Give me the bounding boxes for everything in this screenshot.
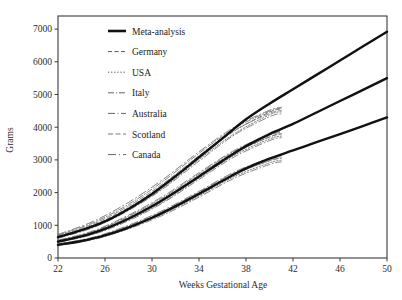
y-tick-label: 6000 [33, 57, 52, 67]
x-tick-label: 30 [147, 264, 157, 274]
x-tick-label: 34 [194, 264, 204, 274]
x-tick-label: 22 [53, 264, 63, 274]
legend-label: USA [132, 68, 151, 78]
y-tick-label: 2000 [33, 188, 52, 198]
chart-root: 01000200030004000500060007000 2226303438… [0, 0, 402, 300]
legend-label: Meta-analysis [132, 27, 186, 37]
x-tick-label: 38 [241, 264, 251, 274]
y-axis-label: Grams [5, 127, 15, 153]
y-tick-label: 1000 [33, 221, 52, 231]
y-tick-label: 5000 [33, 90, 52, 100]
legend-label: Australia [132, 109, 168, 119]
y-tick-label: 0 [47, 253, 52, 263]
x-tick-label: 42 [288, 264, 298, 274]
x-tick-label: 46 [335, 264, 345, 274]
legend-label: Germany [132, 47, 168, 57]
legend-label: Canada [132, 150, 161, 160]
growth-chart: 01000200030004000500060007000 2226303438… [0, 0, 402, 300]
legend-label: Scotland [132, 130, 165, 140]
y-tick-label: 3000 [33, 155, 52, 165]
y-tick-label: 4000 [33, 123, 52, 133]
legend-label: Italy [132, 88, 150, 98]
x-tick-label: 50 [382, 264, 392, 274]
y-tick-label: 7000 [33, 24, 52, 34]
x-axis-label: Weeks Gestational Age [179, 280, 267, 290]
x-tick-label: 26 [100, 264, 110, 274]
